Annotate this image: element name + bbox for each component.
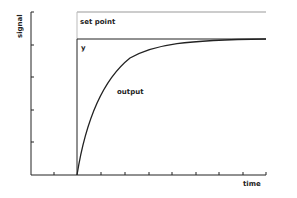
x-axis-label: time xyxy=(243,180,261,188)
output-curve xyxy=(77,39,266,175)
y-label: y xyxy=(81,44,86,52)
set-point-label: set point xyxy=(80,18,116,26)
output-label: output xyxy=(117,88,144,96)
y-step-line xyxy=(77,39,266,175)
step-response-chart: set point y output time signal xyxy=(0,0,297,198)
y-axis-label: signal xyxy=(16,14,24,38)
